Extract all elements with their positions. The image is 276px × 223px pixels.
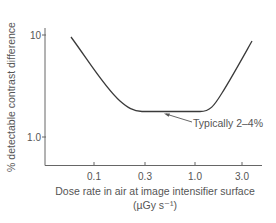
x-axis-units: (µGy s⁻¹) — [133, 199, 177, 211]
x-tick-label-10: 1.0 — [188, 171, 202, 182]
y-tick-label-1: 1.0 — [27, 132, 41, 143]
annotation-label: Typically 2–4% — [193, 117, 263, 129]
data-curve — [71, 37, 252, 112]
y-axis-title: % detectable contrast difference — [5, 22, 17, 172]
x-tick-label-01: 0.1 — [87, 171, 101, 182]
x-axis-title: Dose rate in air at image intensifier su… — [55, 185, 255, 197]
chart: 10 1.0 0.1 0.3 1.0 3.0 Dose rate in air … — [0, 0, 276, 223]
arrowhead-icon — [164, 113, 170, 116]
x-tick-label-03: 0.3 — [138, 171, 152, 182]
y-tick-label-10: 10 — [30, 30, 42, 41]
annotation-arrow-line — [166, 114, 192, 122]
x-tick-label-30: 3.0 — [235, 171, 249, 182]
